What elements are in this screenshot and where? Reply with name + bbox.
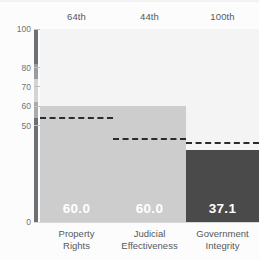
percentile-label-1: 44th: [113, 9, 186, 25]
y-axis-tick: 100: [14, 24, 40, 34]
chart-container: 64th 44th 100th 100807060500 60.0 60.0: [0, 0, 259, 260]
reference-line: [113, 138, 186, 140]
bar-value-label: 60.0: [63, 201, 90, 222]
y-axis-tick: 80: [14, 63, 40, 73]
category-label-row: Property Rights Judicial Effectiveness G…: [40, 226, 259, 258]
y-axis-tick: 60: [14, 101, 40, 111]
bar-judicial-effectiveness[interactable]: 60.0: [113, 106, 186, 222]
bar-column-government-integrity[interactable]: 37.1: [186, 29, 259, 222]
y-axis-tick: 50: [14, 121, 40, 131]
y-axis-tick-label: 80: [14, 63, 31, 73]
scale-bar-segment: [34, 118, 38, 222]
category-line-1: Property: [41, 228, 112, 240]
category-line-2: Effectiveness: [114, 240, 185, 252]
y-axis-tick-label: 50: [14, 121, 31, 131]
y-axis-tick-label: 60: [14, 101, 31, 111]
reference-line: [186, 142, 259, 144]
y-axis-tick-label: 70: [14, 82, 31, 92]
bar-column-property-rights[interactable]: 60.0: [40, 29, 113, 222]
category-line-1: Judicial: [114, 228, 185, 240]
plot-area: 100807060500 60.0 60.0 37.1: [40, 29, 259, 222]
bar-columns: 60.0 60.0 37.1: [40, 29, 259, 222]
reference-line: [40, 117, 113, 119]
y-axis-tick-label: 100: [14, 24, 31, 34]
category-line-2: Integrity: [187, 240, 258, 252]
category-line-2: Rights: [41, 240, 112, 252]
category-line-1: Government: [187, 228, 258, 240]
bar-value-label: 60.0: [136, 201, 163, 222]
bar-government-integrity[interactable]: 37.1: [186, 150, 259, 222]
category-label-judicial-effectiveness: Judicial Effectiveness: [113, 226, 186, 258]
percentile-header-row: 64th 44th 100th: [40, 9, 259, 25]
bar-property-rights[interactable]: 60.0: [40, 106, 113, 222]
top-divider: [0, 0, 259, 2]
y-axis-tick: 70: [14, 82, 40, 92]
category-label-government-integrity: Government Integrity: [186, 226, 259, 258]
category-label-property-rights: Property Rights: [40, 226, 113, 258]
scale-bar-segment: [34, 29, 38, 64]
percentile-label-2: 100th: [186, 9, 259, 25]
percentile-label-0: 64th: [40, 9, 113, 25]
y-axis-tick-label: 0: [14, 217, 31, 227]
bar-value-label: 37.1: [209, 201, 236, 222]
x-axis-baseline: [34, 222, 259, 223]
bar-column-judicial-effectiveness[interactable]: 60.0: [113, 29, 186, 222]
